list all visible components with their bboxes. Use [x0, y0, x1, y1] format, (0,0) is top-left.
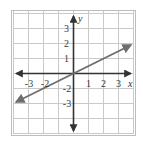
x-tick-label-neg3: -3 — [22, 79, 36, 89]
x-tick-label-neg2: -2 — [38, 79, 52, 89]
y-tick-label-1: 1 — [62, 54, 71, 64]
y-axis-label: y — [78, 14, 82, 24]
y-tick-label-neg3: -3 — [60, 99, 74, 109]
x-tick-label-3: 3 — [114, 79, 123, 89]
x-axis-label: x — [128, 79, 132, 89]
x-tick-label-2: 2 — [99, 79, 108, 89]
y-tick-label-3: 3 — [62, 24, 71, 34]
graph-figure: -3 -2 1 2 3 3 2 1 -2 -3 x y — [0, 0, 143, 142]
y-tick-label-2: 2 — [62, 39, 71, 49]
y-tick-label-neg2: -2 — [60, 84, 74, 94]
coordinate-plane-plot — [0, 0, 143, 142]
x-tick-label-1: 1 — [84, 79, 93, 89]
